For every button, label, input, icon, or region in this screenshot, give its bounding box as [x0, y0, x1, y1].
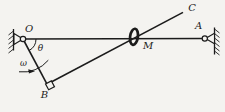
wall-hatching-left [9, 31, 14, 53]
pin-circle-a [202, 36, 207, 41]
ground-support-left [9, 29, 26, 53]
label-theta-angle: θ [38, 43, 44, 53]
label-point-b: B [40, 89, 48, 100]
theta-angle-arc [29, 39, 36, 51]
ground-support-right [202, 28, 219, 56]
label-point-m: M [142, 40, 154, 51]
label-point-a: A [194, 20, 202, 31]
label-point-o: O [25, 23, 33, 34]
sleeve-ring-m [129, 28, 139, 45]
link-oa-bar [23, 39, 205, 40]
mechanism-figure: O A B C M θ ω [0, 0, 225, 112]
label-point-c: C [188, 2, 196, 13]
wall-hatching-right [215, 29, 220, 55]
mechanism-diagram: O A B C M θ ω [0, 0, 225, 112]
rod-bc [47, 12, 183, 84]
pin-circle-o [20, 36, 25, 41]
label-omega: ω [20, 58, 27, 68]
